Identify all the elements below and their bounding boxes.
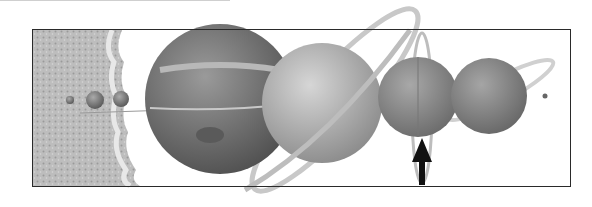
figure-frame [32,29,571,187]
